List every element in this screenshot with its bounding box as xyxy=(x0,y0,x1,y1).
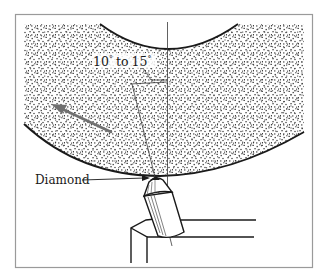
dressing-diagram: 10°to15° xyxy=(0,0,326,276)
diamond-label: Diamond xyxy=(35,173,90,187)
angle-label: 10°to15° xyxy=(93,54,151,69)
diagram-canvas: 10°to15° xyxy=(0,0,326,276)
